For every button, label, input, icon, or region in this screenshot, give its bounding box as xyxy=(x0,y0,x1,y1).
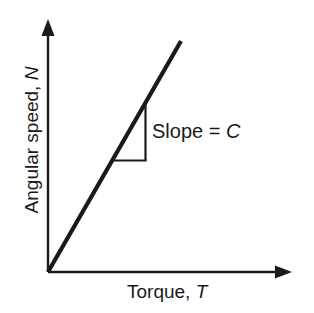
x-axis-label: Torque, T xyxy=(127,282,207,301)
data-line xyxy=(48,41,181,272)
y-axis-arrowhead-icon xyxy=(42,19,55,36)
x-axis-label-symbol: T xyxy=(196,281,208,302)
slope-annotation-symbol: C xyxy=(226,120,240,142)
graph-canvas xyxy=(0,0,314,313)
slope-annotation-label: Slope = C xyxy=(152,121,240,141)
x-axis-arrowhead-icon xyxy=(275,266,292,279)
x-axis-label-text: Torque, xyxy=(127,281,196,302)
slope-annotation-text: Slope = xyxy=(152,120,226,142)
figure-container: Torque, T Angular speed, N Slope = C xyxy=(0,0,314,313)
